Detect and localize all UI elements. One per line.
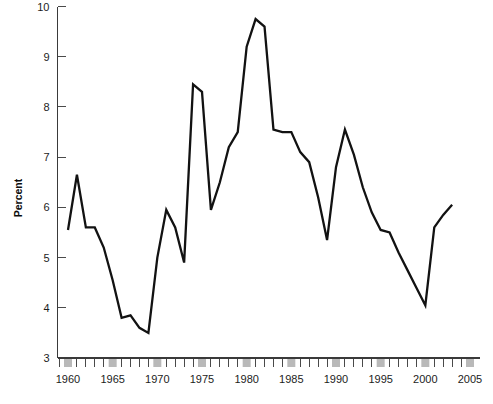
- chart-container: 345678910 196019651970197519801985199019…: [0, 0, 493, 404]
- y-axis: 345678910: [37, 1, 65, 365]
- y-tick-label: 8: [43, 101, 49, 113]
- y-tick-label: 5: [43, 252, 49, 264]
- x-tick-highlight-block: [287, 359, 295, 367]
- y-tick-label: 3: [43, 352, 49, 364]
- x-tick-highlight-block: [377, 359, 385, 367]
- x-tick-label: 1970: [145, 373, 169, 385]
- x-tick-label: 2000: [413, 373, 437, 385]
- y-axis-title: Percent: [12, 178, 24, 217]
- x-tick-highlight-block: [153, 359, 161, 367]
- x-tick-group: 1960196519701975198019851990199520002005: [56, 359, 482, 385]
- y-tick-group: 345678910: [37, 1, 65, 365]
- x-axis: 1960196519701975198019851990199520002005: [56, 358, 482, 385]
- x-tick-label: 1985: [279, 373, 303, 385]
- y-tick-label: 7: [43, 151, 49, 163]
- series-line-percent: [68, 19, 452, 333]
- x-tick-label: 2005: [458, 373, 482, 385]
- x-tick-highlight-block: [466, 359, 474, 367]
- y-tick-label: 4: [43, 302, 49, 314]
- line-chart: 345678910 196019651970197519801985199019…: [0, 0, 493, 404]
- y-tick-label: 10: [37, 1, 49, 13]
- plot-area: [68, 19, 452, 333]
- x-tick-label: 1995: [368, 373, 392, 385]
- x-tick-highlight-block: [109, 359, 117, 367]
- x-tick-highlight-block: [332, 359, 340, 367]
- x-tick-highlight-block: [243, 359, 251, 367]
- x-tick-label: 1990: [324, 373, 348, 385]
- x-tick-highlight-block: [421, 359, 429, 367]
- x-tick-label: 1965: [100, 373, 124, 385]
- y-axis-label: Percent: [12, 178, 24, 217]
- x-tick-highlight-block: [198, 359, 206, 367]
- x-tick-label: 1975: [190, 373, 214, 385]
- y-tick-label: 9: [43, 51, 49, 63]
- x-tick-label: 1960: [56, 373, 80, 385]
- x-tick-label: 1980: [234, 373, 258, 385]
- x-tick-highlight-block: [64, 359, 72, 367]
- y-tick-label: 6: [43, 201, 49, 213]
